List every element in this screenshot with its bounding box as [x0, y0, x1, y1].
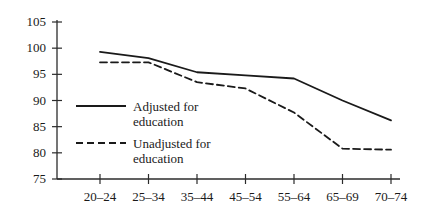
y-tick-label: 75: [12, 172, 46, 185]
y-tick-label: 100: [12, 41, 46, 54]
y-tick-label: 105: [12, 15, 46, 28]
y-tick-label: 85: [12, 120, 46, 133]
line-chart-figure: 1051009590858075 20–2425–3435–4445–5455–…: [0, 0, 429, 218]
x-tick-label: 70–74: [363, 190, 419, 203]
plot-area: [0, 0, 429, 218]
y-tick-label: 80: [12, 146, 46, 159]
y-tick-label: 90: [12, 94, 46, 107]
y-tick-label: 95: [12, 67, 46, 80]
data-series-group: [100, 52, 391, 150]
